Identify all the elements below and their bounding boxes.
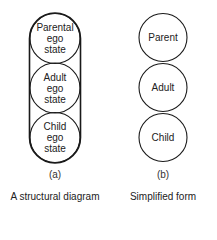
state-label-line: ego [30, 132, 80, 143]
sublabel-b: (b) [148, 169, 178, 180]
caption-a: A structural diagram [5, 191, 105, 202]
adult-ego-label: Adult ego state [30, 72, 80, 105]
child-ego-label: Child ego state [30, 121, 80, 154]
state-label-line: Adult [30, 72, 80, 83]
parent-label: Parent [138, 32, 188, 43]
state-label-line: ego [30, 33, 80, 44]
state-label-line: Child [30, 121, 80, 132]
adult-label: Adult [138, 82, 188, 93]
state-label-line: state [30, 44, 80, 55]
state-label-line: state [30, 94, 80, 105]
state-label-line: Parental [30, 22, 80, 33]
state-label-line: ego [30, 83, 80, 94]
sublabel-a: (a) [40, 169, 70, 180]
parental-ego-label: Parental ego state [30, 22, 80, 55]
state-label-line: state [30, 143, 80, 154]
caption-b: Simplified form [118, 191, 208, 202]
child-label: Child [138, 132, 188, 143]
